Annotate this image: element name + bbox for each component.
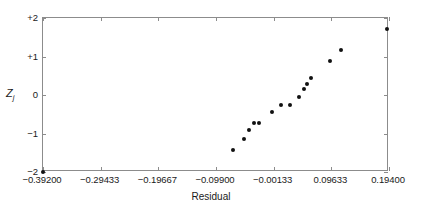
x-axis-tick-label: 0.19400 (371, 174, 405, 185)
data-point (302, 87, 306, 91)
data-point (339, 48, 343, 52)
data-point (279, 103, 283, 107)
x-axis-tick (101, 167, 102, 171)
plot-area (42, 17, 388, 171)
y-axis-tick (42, 95, 46, 96)
y-axis-tick-right (384, 95, 388, 96)
y-axis-tick-label: 0 (18, 89, 38, 100)
y-axis-tick-label: +2 (18, 12, 38, 23)
y-axis-tick-right (384, 134, 388, 135)
x-axis-tick-label: −0.00133 (253, 174, 292, 185)
y-axis-tick-right (384, 172, 388, 173)
x-axis-tick-top (389, 17, 390, 21)
y-axis-tick-right (384, 57, 388, 58)
x-axis-tick-label: −0.29433 (80, 174, 119, 185)
data-point (257, 121, 261, 125)
x-axis-label: Residual (0, 191, 422, 202)
x-axis-tick-top (216, 17, 217, 21)
data-point (231, 148, 235, 152)
x-axis-tick-top (331, 17, 332, 21)
x-axis-tick-top (274, 17, 275, 21)
data-point (328, 59, 332, 63)
y-axis-tick-right (384, 18, 388, 19)
x-axis-tick-label: −0.09900 (195, 174, 234, 185)
y-axis-tick (42, 57, 46, 58)
x-axis-tick-label: −0.39200 (22, 174, 61, 185)
x-axis-tick-top (101, 17, 102, 21)
x-axis-tick-label: −0.19667 (138, 174, 177, 185)
data-point (309, 76, 313, 80)
data-point (247, 128, 251, 132)
data-point (270, 110, 274, 114)
data-point (297, 95, 301, 99)
x-axis-tick (389, 167, 390, 171)
y-axis-label-subscript: j (13, 93, 15, 102)
data-point (305, 82, 309, 86)
y-axis-tick (42, 18, 46, 19)
y-axis-tick-label: +1 (18, 50, 38, 61)
x-axis-tick-label: 0.09633 (314, 174, 348, 185)
data-point (288, 103, 292, 107)
y-axis-label-base: Z (6, 87, 13, 99)
data-point (242, 137, 246, 141)
y-axis-tick-label: −1 (18, 127, 38, 138)
y-axis-tick (42, 134, 46, 135)
data-point (41, 170, 45, 174)
data-point (385, 27, 389, 31)
x-axis-tick-top (158, 17, 159, 21)
x-axis-tick (216, 167, 217, 171)
x-axis-tick (274, 167, 275, 171)
data-point (252, 121, 256, 125)
x-axis-tick (158, 167, 159, 171)
normal-probability-plot-figure: Zj +2+10−1−2 −0.39200−0.29433−0.19667−0.… (0, 0, 422, 213)
y-axis-label: Zj (6, 87, 14, 102)
x-axis-tick (331, 167, 332, 171)
